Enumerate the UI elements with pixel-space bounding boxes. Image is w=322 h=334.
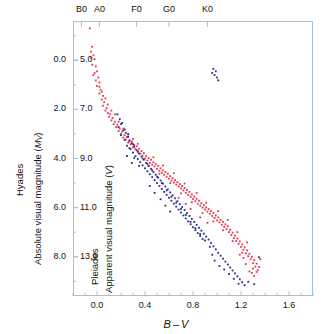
data-point: [256, 263, 258, 265]
data-point: [147, 170, 149, 172]
data-point: [99, 93, 101, 95]
data-point: [135, 155, 137, 157]
data-point: [237, 231, 239, 233]
data-point: [195, 227, 197, 229]
data-point: [204, 240, 206, 242]
data-point: [193, 221, 195, 223]
data-point: [185, 203, 187, 205]
data-point: [221, 224, 223, 226]
data-point: [203, 233, 205, 235]
data-point: [163, 174, 165, 176]
data-point: [215, 70, 217, 72]
data-point: [180, 208, 182, 210]
data-point: [253, 283, 255, 285]
data-point: [120, 123, 122, 125]
data-point: [231, 234, 233, 236]
data-point: [220, 219, 222, 221]
data-point: [192, 198, 194, 200]
data-point: [238, 243, 240, 245]
y-tick-label-absolute: 4.0: [53, 153, 66, 163]
data-point: [190, 221, 192, 223]
data-point: [190, 208, 192, 210]
data-point: [114, 121, 116, 123]
data-point: [161, 172, 163, 174]
data-point: [255, 266, 257, 268]
data-point: [171, 180, 173, 182]
data-point: [91, 46, 93, 48]
data-point: [106, 107, 108, 109]
data-point: [153, 171, 155, 173]
data-point: [179, 183, 181, 185]
data-point: [157, 165, 159, 167]
data-point: [190, 196, 192, 198]
data-point: [180, 188, 182, 190]
data-point: [216, 77, 218, 79]
x-tick-label: 1.6: [283, 300, 296, 310]
data-point: [131, 140, 133, 142]
data-point: [173, 203, 175, 205]
data-point: [127, 134, 129, 136]
data-point: [243, 249, 245, 251]
data-point: [246, 249, 248, 251]
data-point: [257, 269, 259, 271]
data-point: [205, 236, 207, 238]
data-point: [124, 134, 126, 136]
data-point: [245, 252, 247, 254]
data-point: [96, 85, 98, 87]
data-point: [112, 117, 114, 119]
x-tick-label: 0.4: [139, 300, 152, 310]
data-point: [187, 194, 189, 196]
data-point: [203, 204, 205, 206]
data-point: [97, 77, 99, 79]
data-point: [217, 80, 219, 82]
data-point: [178, 197, 180, 199]
data-point: [227, 219, 229, 221]
data-point: [129, 147, 131, 149]
data-point: [107, 104, 109, 106]
data-point: [191, 218, 193, 220]
data-point: [201, 202, 203, 204]
data-point: [174, 179, 176, 181]
data-point: [150, 159, 152, 161]
data-point: [245, 263, 247, 265]
data-point: [147, 160, 149, 162]
data-point: [125, 132, 127, 134]
data-point: [220, 255, 222, 257]
data-point: [153, 156, 155, 158]
data-point: [217, 217, 219, 219]
data-point: [138, 148, 140, 150]
data-point: [93, 54, 95, 56]
data-point: [101, 99, 103, 101]
data-point: [174, 197, 176, 199]
data-point: [129, 140, 131, 142]
data-point: [177, 181, 179, 183]
data-point: [232, 270, 234, 272]
data-point: [183, 215, 185, 217]
data-point: [168, 197, 170, 199]
data-point: [204, 209, 206, 211]
y-axis-title-apparent-tail: ): [103, 165, 114, 168]
data-point: [196, 198, 198, 200]
data-point: [120, 134, 122, 136]
data-point: [154, 179, 156, 181]
data-point: [222, 221, 224, 223]
y-tick-label-absolute: 8.0: [53, 251, 66, 261]
data-point: [214, 260, 216, 262]
data-point: [90, 51, 92, 53]
data-point: [207, 211, 209, 213]
data-point: [159, 173, 161, 175]
data-point: [133, 146, 135, 148]
data-point: [199, 217, 201, 219]
data-point: [198, 227, 200, 229]
data-point: [232, 240, 234, 242]
data-point: [109, 113, 111, 115]
data-point: [252, 262, 254, 264]
data-point: [181, 185, 183, 187]
y-tick-label-apparent: 9.0: [80, 153, 93, 163]
data-point: [147, 163, 149, 165]
data-point: [184, 209, 186, 211]
data-point: [96, 70, 98, 72]
data-point: [210, 242, 212, 244]
data-point: [175, 206, 177, 208]
spectral-tick-label: G0: [163, 4, 175, 14]
